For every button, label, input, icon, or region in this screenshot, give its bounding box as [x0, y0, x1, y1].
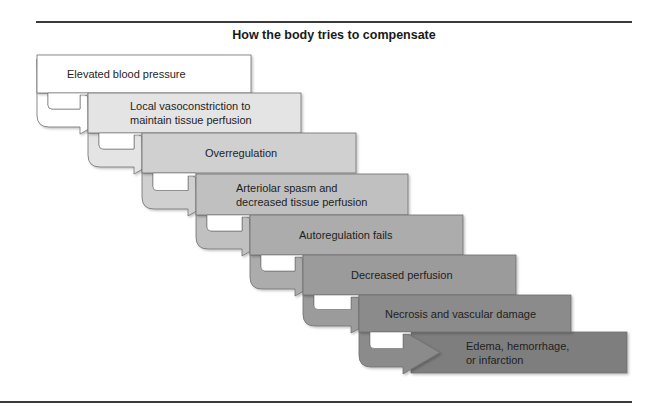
step-text: Elevated blood pressure — [67, 67, 186, 81]
step-label-3: Overregulation — [205, 133, 352, 173]
step-text: Autoregulation fails — [299, 228, 393, 242]
step-label-8: Edema, hemorrhage, or infarction — [466, 332, 623, 373]
step-text: Local vasoconstriction to maintain tissu… — [130, 99, 252, 127]
step-text: Necrosis and vascular damage — [385, 307, 536, 321]
step-text: Arteriolar spasm and decreased tissue pe… — [236, 181, 367, 209]
bottom-rule — [0, 401, 632, 403]
step-label-5: Autoregulation fails — [299, 215, 459, 255]
step-text: Decreased perfusion — [351, 268, 453, 282]
step-text: Overregulation — [205, 146, 277, 160]
step-label-1: Elevated blood pressure — [67, 55, 247, 93]
step-text: Edema, hemorrhage, or infarction — [466, 339, 569, 367]
step-label-7: Necrosis and vascular damage — [385, 295, 567, 332]
step-label-2: Local vasoconstriction to maintain tissu… — [130, 93, 297, 133]
step-label-4: Arteriolar spasm and decreased tissue pe… — [236, 174, 404, 215]
step-label-6: Decreased perfusion — [351, 255, 512, 295]
